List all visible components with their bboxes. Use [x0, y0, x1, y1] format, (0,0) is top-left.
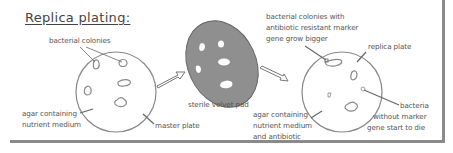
label-master-colonies: bacterial colonies	[49, 36, 110, 46]
label-replica-plate: replica plate	[368, 42, 411, 52]
label-replica-agar-line3: and antibiotic	[253, 132, 301, 142]
label-dying-line3: gene start to die	[367, 123, 425, 133]
label-resistant-line2: antibiotic resistant marker	[266, 23, 358, 33]
label-master-agar-line1: agar containing	[22, 109, 77, 119]
label-master-agar-line2: nutrient medium	[22, 120, 81, 130]
label-velvet-pad: sterile velvet pad	[188, 100, 249, 110]
transfer-arrow-1	[157, 72, 185, 88]
label-resistant-line3: gene grow bigger	[266, 34, 328, 44]
label-resistant-line1: bacterial colonies with	[266, 12, 345, 22]
label-replica-agar-line1: agar containing	[253, 110, 308, 120]
label-dying-line1: bacteria	[400, 101, 429, 111]
transfer-arrow-2	[260, 66, 288, 81]
label-replica-agar-line2: nutrient medium	[253, 121, 312, 131]
label-dying-line2: without marker	[373, 112, 427, 122]
label-master-plate: master plate	[155, 121, 200, 131]
master-plate	[76, 47, 156, 132]
